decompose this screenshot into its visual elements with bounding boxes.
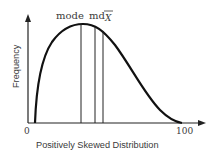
- x-tick-0: 0: [24, 126, 30, 136]
- skewed-distribution-chart: mode md X 0 100 Positively Skewed Distri…: [0, 0, 219, 155]
- x-axis-arrow-icon: [198, 120, 206, 126]
- y-axis-title: Frequency: [11, 44, 21, 88]
- distribution-curve: [35, 24, 182, 123]
- mean-label: X: [104, 13, 112, 23]
- x-axis-title: Positively Skewed Distribution: [36, 140, 159, 150]
- mode-label: mode: [56, 10, 84, 21]
- x-tick-100: 100: [176, 126, 193, 136]
- median-label: md: [89, 10, 105, 21]
- y-axis-arrow-icon: [25, 14, 31, 22]
